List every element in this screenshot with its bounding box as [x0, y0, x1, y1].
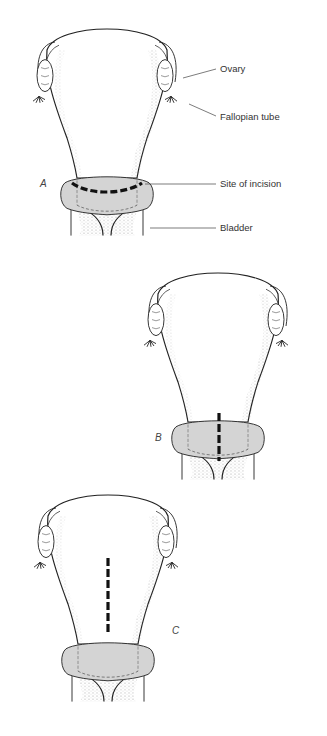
leader-fallopian-tube: [189, 104, 216, 116]
panel-a-uterus: [33, 29, 177, 236]
label-fallopian-tube: Fallopian tube: [220, 111, 280, 122]
panel-label-c: C: [172, 625, 179, 636]
panel-b-uterus: [144, 273, 288, 480]
leader-ovary: [183, 69, 216, 78]
label-bladder: Bladder: [220, 222, 253, 233]
label-site-of-incision: Site of incision: [220, 178, 281, 189]
panel-c-uterus: [34, 495, 178, 702]
panel-label-b: B: [155, 432, 162, 443]
panel-label-a: A: [40, 178, 47, 189]
label-ovary: Ovary: [220, 63, 245, 74]
